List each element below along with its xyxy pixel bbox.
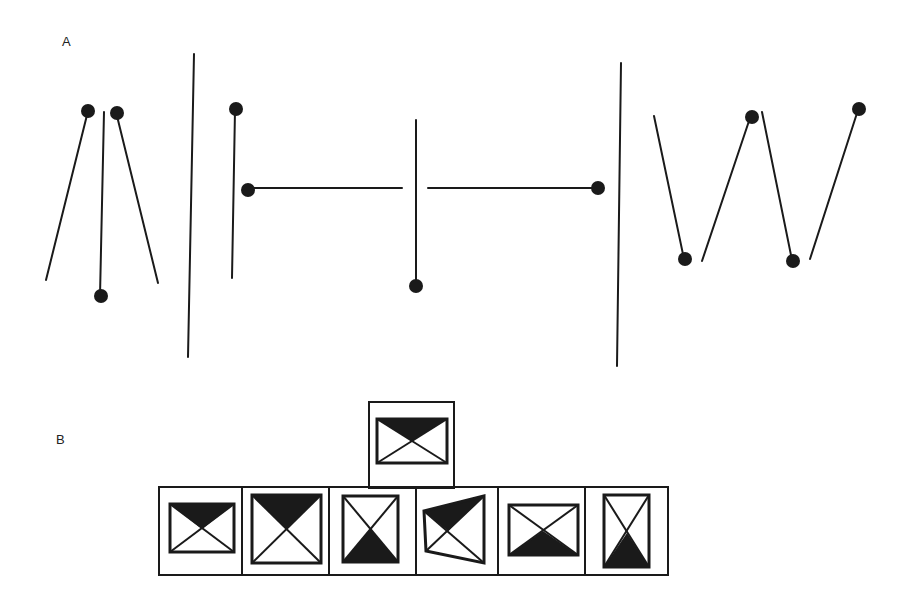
diagram-canvas xyxy=(0,0,908,603)
option-6-figure[interactable] xyxy=(604,495,649,567)
divider-line xyxy=(188,54,194,357)
t-junction-group xyxy=(232,110,598,286)
panel-b xyxy=(159,402,668,575)
option-1-figure[interactable] xyxy=(170,504,234,552)
converging-lines-group xyxy=(46,112,158,296)
target-frame xyxy=(369,402,454,488)
option-5-figure[interactable] xyxy=(509,505,578,555)
option-2-figure[interactable] xyxy=(252,495,321,563)
option-3-figure[interactable] xyxy=(343,496,398,562)
dots xyxy=(81,102,866,303)
zigzag-w-group xyxy=(654,110,858,261)
panel-a xyxy=(46,54,858,366)
option-4-figure[interactable] xyxy=(424,496,484,563)
divider-line xyxy=(617,63,621,366)
